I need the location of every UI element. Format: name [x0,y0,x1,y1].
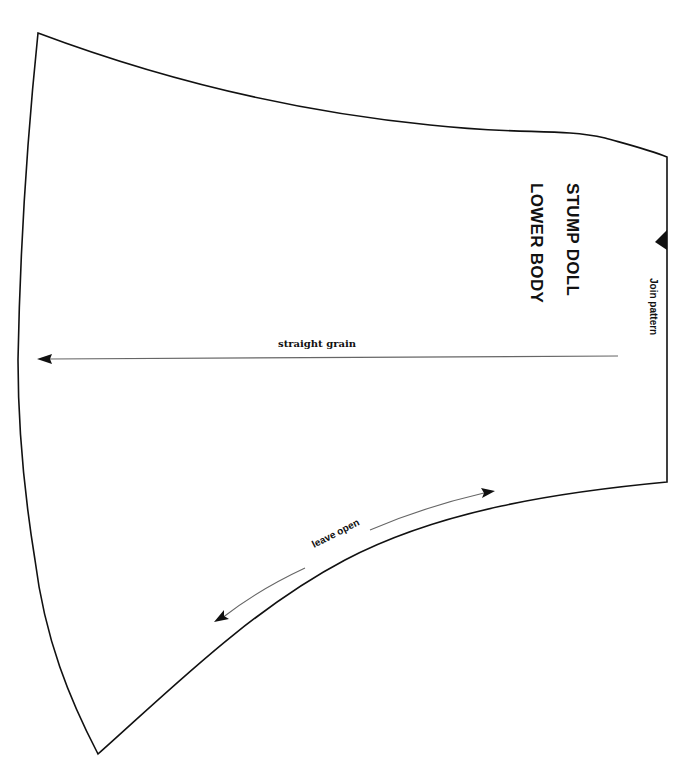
pattern-title-line-2: LOWER BODY [526,183,546,303]
leave-open-line-upper [370,493,484,530]
straight-grain-label: straight grain [278,338,356,349]
straight-grain-line [48,356,618,359]
join-notch-icon [655,230,667,250]
straight-grain-arrow-icon [37,354,52,364]
join-pattern-label: Join pattern [648,278,659,335]
leave-open-arrow-lower-icon [214,610,229,622]
leave-open-line-lower [222,568,305,618]
pattern-outline [18,33,667,754]
pattern-piece-canvas [0,0,693,782]
pattern-title-line-1: STUMP DOLL [562,183,582,296]
